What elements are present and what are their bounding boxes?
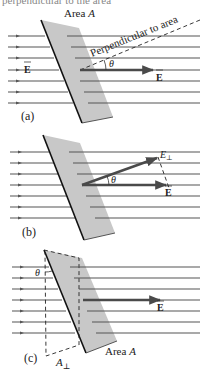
panel-b-label: (b)	[22, 225, 36, 239]
e-label-left: E	[24, 64, 31, 75]
projected-area-label: A⊥	[55, 356, 70, 371]
e-perp-vector	[82, 158, 157, 185]
e-label: E	[157, 302, 164, 313]
panel-b: θ E⊥ E (b)	[10, 135, 200, 240]
e-label-right: E	[156, 72, 163, 83]
area-label: Area A	[105, 345, 136, 357]
theta-label: θ	[109, 58, 114, 69]
theta-label: θ	[35, 267, 40, 278]
panel-a-label: (a)	[21, 109, 34, 123]
svg-text:perpendicular to the area: perpendicular to the area	[2, 0, 111, 6]
e-label: E	[165, 187, 172, 198]
e-perp-label: E⊥	[159, 149, 173, 162]
angle-arc	[104, 60, 106, 70]
panel-c: θ E A⊥ Area A (c)	[12, 250, 200, 371]
panel-c-label: (c)	[24, 351, 37, 365]
theta-label: θ	[111, 174, 116, 185]
panel-a: Area A Perpendicular to area θ E E (a)	[8, 7, 200, 123]
area-label: Area A	[64, 7, 95, 19]
electric-flux-diagram: perpendicular to the area	[0, 0, 208, 372]
caption-fragment: perpendicular to the area	[2, 0, 111, 6]
area-plate	[43, 135, 115, 240]
